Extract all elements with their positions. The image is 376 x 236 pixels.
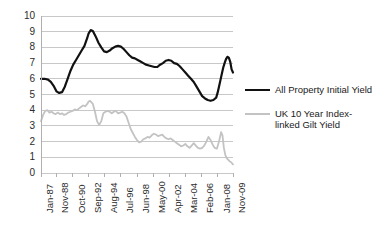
chart-container: 012345678910 Jan-87Nov-88Oct-90Sep-92Aug…	[0, 0, 376, 236]
y-axis-tick-label: 8	[15, 42, 35, 52]
y-axis-tick-label: 4	[15, 105, 35, 115]
y-axis-tick-label: 9	[15, 27, 35, 37]
legend-item: UK 10 Year Index-linked Gilt Yield	[245, 108, 373, 131]
series-line	[41, 30, 233, 101]
legend-item-label: All Property Initial Yield	[275, 84, 372, 95]
x-axis-tick-label: Jul-96	[125, 187, 135, 213]
x-axis-tick-label: May-00	[157, 181, 167, 213]
y-axis-tick-label: 0	[15, 168, 35, 178]
x-axis-tick-label: Jan-08	[222, 184, 232, 213]
y-axis-tick-label: 1	[15, 152, 35, 162]
y-axis-tick-label: 7	[15, 58, 35, 68]
gridlines	[41, 16, 233, 173]
legend-swatch-line-icon	[245, 89, 270, 91]
x-axis-tick-label: Oct-90	[77, 184, 87, 213]
legend-item: All Property Initial Yield	[245, 84, 373, 96]
x-axis-tick-marks	[41, 173, 233, 177]
x-axis-tick-label: Jan-87	[45, 184, 55, 213]
legend-swatch-line-icon	[245, 113, 270, 115]
x-axis-tick-label: Jun-98	[141, 184, 151, 213]
y-axis-tick-label: 3	[15, 121, 35, 131]
data-series-group	[41, 30, 233, 164]
y-axis-tick-label: 6	[15, 74, 35, 84]
y-axis-tick-label: 2	[15, 137, 35, 147]
legend-item-label: UK 10 Year Index-linked Gilt Yield	[275, 108, 352, 131]
x-axis-tick-label: Nov-09	[237, 182, 247, 213]
x-axis-tick-label: Apr-02	[173, 184, 183, 213]
y-axis-tick-label: 5	[15, 90, 35, 100]
y-axis-tick-label: 10	[15, 11, 35, 21]
chart-legend: All Property Initial Yield UK 10 Year In…	[245, 84, 373, 143]
x-axis-tick-label: Feb-06	[205, 183, 215, 213]
x-axis-tick-label: Nov-88	[60, 182, 70, 213]
x-axis-tick-label: Aug-94	[109, 182, 119, 213]
x-axis-tick-label: Sep-92	[93, 182, 103, 213]
x-axis-tick-label: Mar-04	[189, 183, 199, 213]
